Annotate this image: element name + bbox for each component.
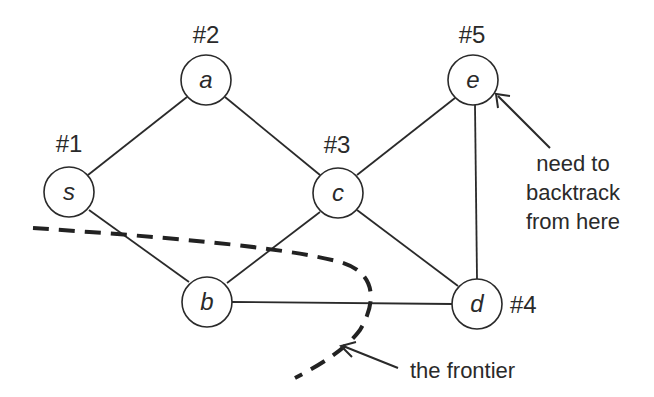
- edge-c-e: [357, 98, 455, 175]
- edge-s-b: [89, 210, 189, 282]
- order-label-e: #5: [459, 21, 486, 48]
- edge-b-d: [232, 302, 452, 304]
- order-label-s: #1: [56, 130, 83, 157]
- order-label-c: #3: [324, 131, 351, 158]
- frontier-arrow-icon: [341, 342, 398, 368]
- node-s-label: s: [63, 178, 75, 205]
- node-e-label: e: [466, 66, 479, 93]
- frontier-annotation: the frontier: [410, 358, 515, 383]
- edge-c-d: [357, 210, 458, 286]
- node-e: e: [448, 55, 498, 105]
- node-s: s: [44, 167, 94, 217]
- edge-s-a: [88, 97, 187, 175]
- backtrack-annotation-line1: need to: [536, 151, 609, 176]
- order-label-a: #2: [193, 21, 220, 48]
- graph-diagram: s a c d e b #1 #2 #3 #4 #5 need to backt…: [0, 0, 654, 397]
- node-d: d: [452, 279, 502, 329]
- edge-a-c: [225, 97, 320, 175]
- node-b: b: [182, 277, 232, 327]
- node-c: c: [313, 168, 363, 218]
- node-b-label: b: [200, 288, 213, 315]
- node-a: a: [181, 55, 231, 105]
- backtrack-annotation-line2: backtrack: [526, 180, 621, 205]
- edges: [88, 97, 477, 304]
- node-d-label: d: [470, 290, 484, 317]
- backtrack-annotation-line3: from here: [526, 209, 620, 234]
- edge-e-d: [475, 105, 477, 279]
- order-label-d: #4: [510, 291, 537, 318]
- backtrack-arrow-icon: [496, 94, 550, 148]
- node-a-label: a: [199, 66, 212, 93]
- node-c-label: c: [332, 179, 344, 206]
